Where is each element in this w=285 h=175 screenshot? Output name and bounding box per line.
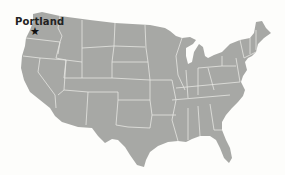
us-outline xyxy=(21,12,271,167)
us-map: Portland ★ xyxy=(0,0,285,175)
star-icon: ★ xyxy=(30,26,40,37)
